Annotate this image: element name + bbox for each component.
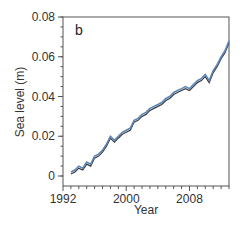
x-tick-label: 2008: [176, 192, 203, 206]
y-tick-label: 0: [48, 169, 55, 183]
y-tick-label: 0.06: [32, 50, 56, 64]
y-axis-label: Sea level (m): [13, 67, 27, 138]
x-axis-label: Year: [134, 203, 158, 217]
series-lines: [71, 41, 229, 174]
panel-label: b: [75, 22, 83, 38]
y-tick-label: 0.04: [32, 90, 56, 104]
y-axis: 00.020.040.060.08: [32, 10, 63, 183]
sea-level-chart: 00.020.040.060.08 199220002008 b Year Se…: [0, 0, 242, 235]
y-tick-label: 0.02: [32, 129, 56, 143]
plot-frame: [63, 17, 229, 186]
x-tick-label: 1992: [50, 192, 77, 206]
y-tick-label: 0.08: [32, 10, 56, 24]
series-line: [71, 41, 229, 172]
